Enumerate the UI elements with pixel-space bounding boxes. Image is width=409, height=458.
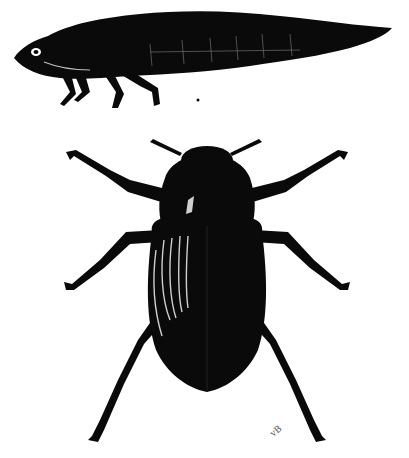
adult-beetle-figure bbox=[64, 139, 350, 442]
larva-figure bbox=[14, 11, 392, 108]
beetle-illustration bbox=[0, 0, 409, 458]
illustration-plate: vB bbox=[0, 0, 409, 458]
